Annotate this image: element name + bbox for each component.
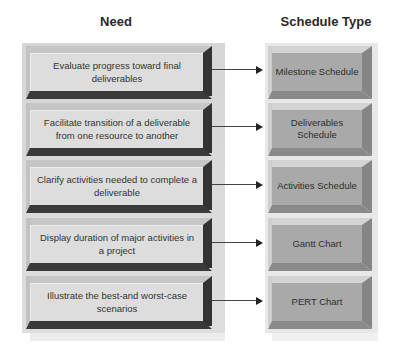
arrow-head-icon <box>256 239 263 247</box>
need-box-3: Clarify activities needed to complete a … <box>26 160 212 210</box>
need-box-4: Display duration of major activities in … <box>26 218 212 268</box>
arrow-connector-3 <box>212 181 263 189</box>
arrow-line <box>212 300 256 301</box>
arrow-line <box>212 126 256 127</box>
schedule-type-box-4: Gantt Chart <box>268 218 372 268</box>
need-text: Display duration of major activities in … <box>30 225 203 263</box>
schedule-type-text: Activities Schedule <box>272 167 362 205</box>
schedule-type-box-5: PERT Chart <box>268 276 372 326</box>
need-box-5: Illustrate the best-and worst-case scena… <box>26 276 212 326</box>
arrow-head-icon <box>256 123 263 131</box>
schedule-type-box-1: Milestone Schedule <box>268 46 372 96</box>
arrow-head-icon <box>256 297 263 305</box>
arrow-line <box>212 242 256 243</box>
header-schedule-type: Schedule Type <box>266 14 386 29</box>
arrow-connector-1 <box>212 66 263 74</box>
need-text: Facilitate transition of a deliverable f… <box>30 110 203 148</box>
need-text: Evaluate progress toward final deliverab… <box>30 53 203 91</box>
schedule-type-text: Gantt Chart <box>272 225 362 263</box>
header-need: Need <box>86 14 146 29</box>
arrow-connector-4 <box>212 239 263 247</box>
schedule-type-box-3: Activities Schedule <box>268 160 372 210</box>
need-box-1: Evaluate progress toward final deliverab… <box>26 46 212 96</box>
need-text: Clarify activities needed to complete a … <box>30 167 203 205</box>
schedule-type-text: PERT Chart <box>272 283 362 321</box>
arrow-line <box>212 69 256 70</box>
schedule-type-text: Milestone Schedule <box>272 53 362 91</box>
schedule-type-box-2: Deliverables Schedule <box>268 103 372 153</box>
arrow-head-icon <box>256 66 263 74</box>
need-box-2: Facilitate transition of a deliverable f… <box>26 103 212 153</box>
need-text: Illustrate the best-and worst-case scena… <box>30 283 203 321</box>
schedule-type-panel-shadow <box>272 333 378 341</box>
arrow-connector-5 <box>212 297 263 305</box>
arrow-head-icon <box>256 181 263 189</box>
schedule-type-text: Deliverables Schedule <box>272 110 362 148</box>
arrow-line <box>212 184 256 185</box>
need-panel-shadow <box>30 333 225 341</box>
arrow-connector-2 <box>212 123 263 131</box>
